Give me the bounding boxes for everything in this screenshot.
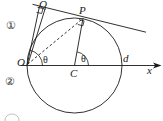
label-point-p: P	[79, 5, 86, 16]
label-point-q: Q	[39, 0, 47, 10]
angle-arc-o	[30, 50, 42, 65]
figure-canvas: Q P O C θ θ d x ① ②	[0, 0, 163, 121]
label-angle-theta-at-c: θ	[81, 54, 86, 64]
list-marker-two: ②	[5, 76, 15, 87]
list-marker-one: ①	[6, 20, 16, 31]
partial-list-marker-icon	[5, 114, 19, 121]
label-point-o: O	[17, 57, 25, 68]
label-point-c: C	[70, 68, 77, 79]
label-axis-x: x	[147, 65, 152, 76]
tangent-line-at-p	[33, 4, 147, 32]
label-angle-theta-at-o: θ	[43, 55, 48, 65]
label-diameter-d: d	[123, 53, 129, 64]
